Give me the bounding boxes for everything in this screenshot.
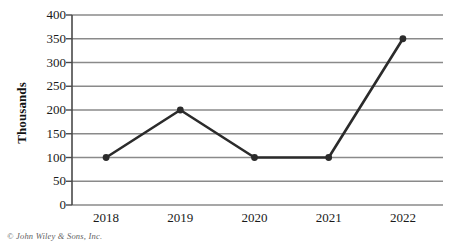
x-tick-label: 2020 <box>225 211 285 225</box>
x-tick-label: 2022 <box>373 211 433 225</box>
x-tick-label: 2021 <box>299 211 359 225</box>
x-tick-label: 2018 <box>76 211 136 225</box>
data-point-marker <box>251 154 258 161</box>
x-axis-tick-labels: 2018 2019 2020 2021 2022 <box>0 211 455 231</box>
data-point-markers <box>103 35 407 161</box>
plot-area <box>0 0 455 246</box>
data-point-marker <box>103 154 110 161</box>
data-point-marker <box>325 154 332 161</box>
copyright-notice: © John Wiley & Sons, Inc. <box>7 231 102 241</box>
data-point-marker <box>400 35 407 42</box>
line-chart-figure: Thousands 400 350 300 250 200 150 100 50… <box>0 0 455 246</box>
data-series-line <box>106 39 403 158</box>
y-axis-ticks <box>66 15 72 205</box>
data-point-marker <box>177 107 184 114</box>
gridlines <box>72 15 443 205</box>
x-tick-label: 2019 <box>150 211 210 225</box>
